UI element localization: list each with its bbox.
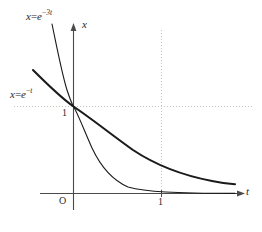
curve-label-e-minus-t: x=e−t — [10, 89, 32, 100]
exponential-decay-figure: x=e−3t x=e−t x t 1 1 O — [0, 0, 262, 232]
tick-label-x-one: 1 — [62, 108, 67, 118]
curve-e-minus-3t — [52, 24, 235, 193]
curve-e-minus-t — [33, 70, 235, 184]
plot-area — [0, 0, 262, 232]
axis-label-t: t — [246, 186, 249, 197]
axis-vertical-arrowhead — [71, 23, 77, 31]
curve-label-e-minus-3t: x=e−3t — [26, 11, 52, 22]
axis-horizontal-arrowhead — [237, 191, 245, 197]
axis-label-x: x — [82, 19, 87, 30]
tick-label-t-one: 1 — [158, 197, 163, 207]
curve-label-exponent-body: 3t — [46, 8, 52, 17]
curve-label-exponent-body: t — [30, 86, 32, 95]
origin-label: O — [59, 196, 66, 206]
